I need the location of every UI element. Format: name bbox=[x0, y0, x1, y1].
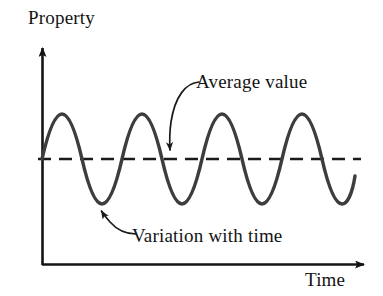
sinusoid-diagram bbox=[0, 0, 383, 296]
variation-with-time-annotation: Variation with time bbox=[132, 226, 283, 245]
x-axis-label: Time bbox=[305, 270, 345, 289]
y-axis-label: Property bbox=[28, 8, 95, 27]
variation-leader bbox=[102, 211, 137, 234]
figure-canvas: Property Time Average value Variation wi… bbox=[0, 0, 383, 296]
average-value-leader bbox=[170, 82, 199, 150]
average-value-annotation: Average value bbox=[196, 72, 307, 91]
